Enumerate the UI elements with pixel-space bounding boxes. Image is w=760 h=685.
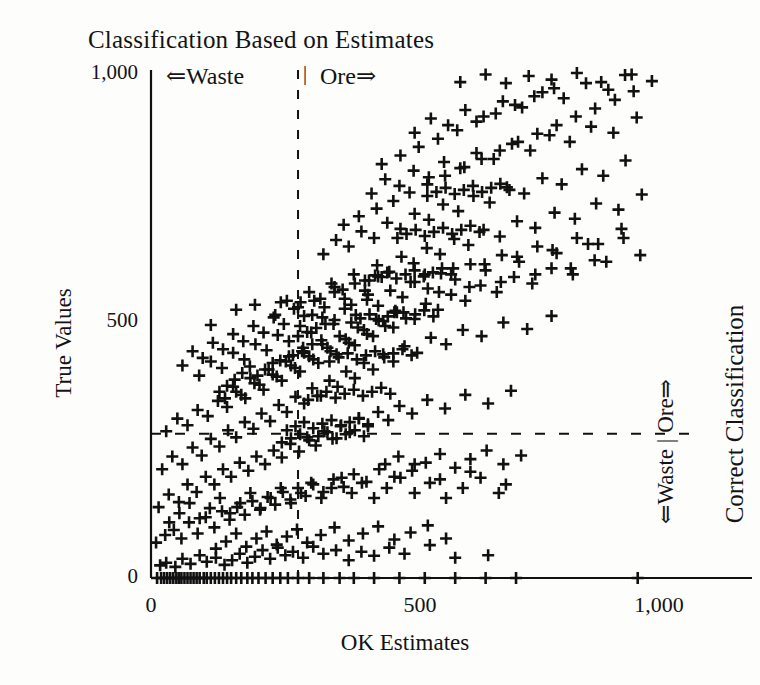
scatter-chart-figure: Classification Based on Estimates ⇐Waste… — [0, 0, 760, 685]
data-point-markers — [150, 67, 658, 584]
cutoff-lines — [151, 70, 700, 578]
plot-area — [0, 0, 760, 685]
